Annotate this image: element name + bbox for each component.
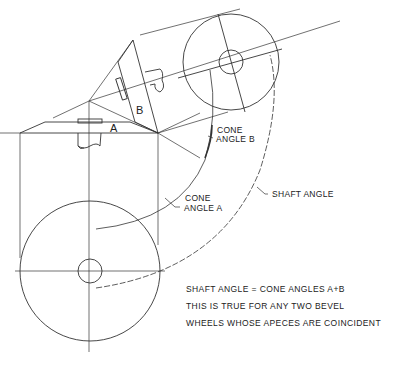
label-cone-angle-a-line2: ANGLE A: [184, 203, 222, 213]
label-cone-angle-a-line1: CONE: [185, 193, 211, 203]
wheel-b-end-view: [178, 14, 282, 112]
note-line-2: THIS IS TRUE FOR ANY TWO BEVEL: [186, 301, 344, 311]
pitch-cone-lines: [0, 9, 340, 158]
label-shaft-angle: SHAFT ANGLE: [272, 189, 334, 199]
label-cone-angle-b-line2: ANGLE B: [216, 134, 255, 144]
bevel-wheel-diagram: A B CONE ANGLE B CONE ANGLE A SHAFT ANGL…: [0, 0, 408, 365]
projection-lines: [15, 101, 165, 352]
label-wheel-a: A: [110, 123, 118, 133]
label-wheel-b: B: [136, 105, 144, 115]
note-line-3: WHEELS WHOSE APECES ARE COINCIDENT: [186, 318, 381, 328]
note-line-1: SHAFT ANGLE = CONE ANGLES A+B: [186, 284, 345, 294]
